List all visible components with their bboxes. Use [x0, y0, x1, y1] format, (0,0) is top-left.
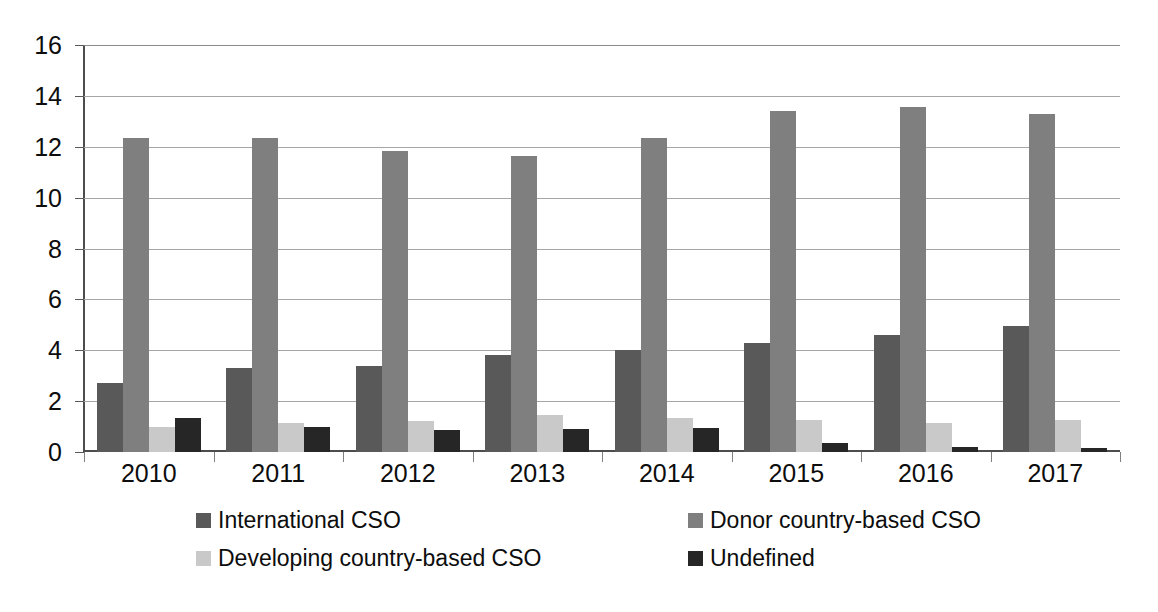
bar[interactable]	[952, 447, 978, 452]
y-tick-mark	[75, 147, 84, 148]
x-tick-label: 2013	[473, 455, 603, 500]
x-axis: 20102011201220132014201520162017	[84, 455, 1120, 500]
bar-group	[991, 45, 1121, 452]
bar[interactable]	[874, 335, 900, 452]
bar[interactable]	[537, 415, 563, 452]
bar-set	[485, 45, 589, 452]
bar[interactable]	[615, 350, 641, 452]
bar-group	[861, 45, 991, 452]
bar[interactable]	[900, 107, 926, 452]
plot-area-wrapper: 1614121086420 20102011201220132014201520…	[0, 0, 1158, 500]
bar[interactable]	[796, 420, 822, 452]
x-tick-label: 2016	[861, 455, 991, 500]
y-tick-mark	[75, 198, 84, 199]
bar[interactable]	[278, 423, 304, 452]
bar[interactable]	[97, 383, 123, 452]
y-tick-label: 14	[10, 83, 62, 108]
bar[interactable]	[1029, 114, 1055, 452]
y-tick-label: 2	[10, 389, 62, 414]
bar-group	[84, 45, 214, 452]
legend-row-2: Developing country-based CSO Undefined	[0, 547, 1158, 579]
y-tick-label: 0	[10, 440, 62, 465]
bar-set	[356, 45, 460, 452]
bar[interactable]	[1003, 326, 1029, 452]
bar-set	[874, 45, 978, 452]
bar[interactable]	[485, 355, 511, 452]
bar[interactable]	[149, 427, 175, 452]
y-tick-mark	[75, 249, 84, 250]
legend-item-undefined: Undefined	[688, 547, 815, 570]
bar[interactable]	[252, 138, 278, 452]
x-tick-label: 2014	[602, 455, 732, 500]
bar[interactable]	[434, 430, 460, 452]
bar-group	[602, 45, 732, 452]
bar[interactable]	[511, 156, 537, 452]
bar[interactable]	[693, 428, 719, 452]
bar[interactable]	[175, 418, 201, 452]
bar[interactable]	[1055, 420, 1081, 452]
y-tick-label: 16	[10, 33, 62, 58]
bar[interactable]	[822, 443, 848, 452]
bar[interactable]	[226, 368, 252, 452]
bar-group	[732, 45, 862, 452]
y-tick-mark	[75, 401, 84, 402]
legend-item-international-cso: International CSO	[196, 509, 401, 532]
x-tick-label: 2012	[343, 455, 473, 500]
x-tick-label: 2015	[732, 455, 862, 500]
bar[interactable]	[744, 343, 770, 452]
y-tick-label: 6	[10, 287, 62, 312]
bar-group	[343, 45, 473, 452]
bar-set	[1003, 45, 1107, 452]
bar[interactable]	[926, 423, 952, 452]
chart-legend: International CSO Donor country-based CS…	[0, 505, 1158, 590]
legend-swatch-developing-country-based-cso	[196, 551, 211, 566]
legend-row-1: International CSO Donor country-based CS…	[0, 509, 1158, 541]
bar[interactable]	[667, 418, 693, 452]
y-tick-mark	[75, 299, 84, 300]
y-tick-label: 8	[10, 236, 62, 261]
bar-chart: 1614121086420 20102011201220132014201520…	[0, 0, 1158, 612]
y-tick-label: 12	[10, 134, 62, 159]
y-tick-label: 10	[10, 185, 62, 210]
legend-label-developing-country-based-cso: Developing country-based CSO	[218, 547, 541, 570]
legend-item-developing-country-based-cso: Developing country-based CSO	[196, 547, 541, 570]
bar[interactable]	[770, 111, 796, 452]
bar[interactable]	[1081, 448, 1107, 452]
bar-set	[97, 45, 201, 452]
bar-group	[473, 45, 603, 452]
y-tick-mark	[75, 45, 84, 46]
y-tick-mark	[75, 350, 84, 351]
bar-set	[744, 45, 848, 452]
x-tick-mark	[1120, 452, 1121, 462]
bar-group	[214, 45, 344, 452]
plot-area	[84, 45, 1120, 452]
bar[interactable]	[356, 366, 382, 452]
legend-swatch-international-cso	[196, 513, 211, 528]
bar[interactable]	[382, 151, 408, 452]
y-axis: 1614121086420	[0, 0, 62, 500]
legend-label-international-cso: International CSO	[218, 509, 401, 532]
y-tick-mark	[75, 452, 84, 453]
bar[interactable]	[641, 138, 667, 452]
legend-label-undefined: Undefined	[710, 547, 815, 570]
legend-swatch-donor-country-based-cso	[688, 513, 703, 528]
y-tick-label: 4	[10, 338, 62, 363]
x-tick-label: 2010	[84, 455, 214, 500]
bar-groups	[84, 45, 1120, 452]
legend-item-donor-country-based-cso: Donor country-based CSO	[688, 509, 981, 532]
y-tick-mark	[75, 96, 84, 97]
legend-label-donor-country-based-cso: Donor country-based CSO	[710, 509, 981, 532]
bar-set	[226, 45, 330, 452]
bar-set	[615, 45, 719, 452]
bar[interactable]	[563, 429, 589, 452]
legend-swatch-undefined	[688, 551, 703, 566]
bar[interactable]	[408, 421, 434, 452]
x-tick-label: 2011	[214, 455, 344, 500]
bar[interactable]	[304, 427, 330, 452]
x-tick-label: 2017	[991, 455, 1121, 500]
bar[interactable]	[123, 138, 149, 452]
